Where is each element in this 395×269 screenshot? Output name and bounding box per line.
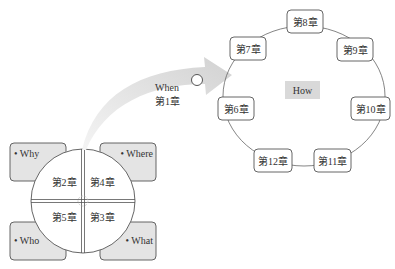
chapter-node-ch8: 第8章 (287, 10, 323, 33)
chapter-node-ch6: 第6章 (218, 97, 254, 120)
label-why: • Why (14, 148, 39, 159)
quadrant-ch3: 第3章 (90, 211, 115, 223)
quad-circle-outline (31, 149, 135, 253)
chapter-node-ch7: 第7章 (230, 37, 266, 60)
chapter-label: 第8章 (293, 16, 318, 28)
label-who: • Who (14, 235, 39, 246)
quadrant-ch5: 第5章 (52, 211, 77, 223)
chapter-label: 第11章 (318, 155, 348, 167)
chapter-node-ch12: 第12章 (254, 149, 292, 172)
quad-circle: 第2章 第4章 第5章 第3章 (31, 149, 135, 253)
how-label: How (293, 85, 313, 96)
label-where: • Where (121, 148, 154, 159)
quadrant-ch2: 第2章 (52, 176, 77, 188)
chapter-node-ch10: 第10章 (351, 97, 390, 120)
chapter-node-ch9: 第9章 (337, 38, 373, 61)
curved-arrow: When 第1章 (82, 57, 232, 150)
arrow-circle-marker (192, 75, 203, 86)
chapter-node-ch11: 第11章 (314, 149, 351, 172)
chapter-label: 第10章 (356, 103, 386, 115)
chapter-label: 第7章 (236, 43, 261, 55)
chapter-label: 第6章 (224, 103, 249, 115)
arrow-label-when: When (155, 82, 179, 93)
quadrant-ch4: 第4章 (90, 176, 115, 188)
arrow-label-ch1: 第1章 (155, 95, 180, 107)
diagram-canvas: • Why • Where • Who • What 第2章 第4章 第5章 第… (0, 0, 395, 269)
chapter-label: 第12章 (258, 155, 288, 167)
label-what: • What (126, 235, 154, 246)
chapter-label: 第9章 (343, 44, 368, 56)
